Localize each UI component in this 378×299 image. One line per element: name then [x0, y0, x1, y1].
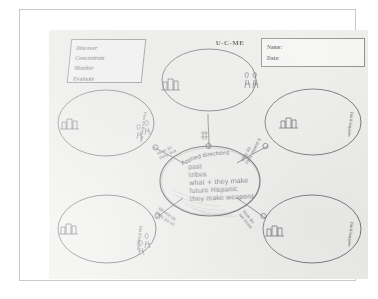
legend-item-evaluate: Evaluate	[73, 74, 142, 84]
legend-item-discover: Discover	[76, 43, 145, 53]
legend-item-monitor: Monitor	[74, 63, 143, 73]
scanned-worksheet-sheet: Discover Concentrate Monitor Evaluate U-…	[49, 30, 368, 279]
legend-box: Discover Concentrate Monitor Evaluate	[67, 39, 147, 83]
right-upper-oval	[265, 89, 361, 155]
name-field-label: Name:	[267, 42, 364, 53]
document-page-frame: Discover Concentrate Monitor Evaluate U-…	[19, 9, 356, 281]
top-oval	[162, 49, 256, 111]
glyph-top-right	[245, 73, 258, 88]
glyph-right-upper	[279, 118, 298, 128]
left-upper-oval	[58, 90, 154, 156]
name-date-box: Name: Date:	[261, 38, 365, 67]
glyph-right-lower	[265, 226, 284, 236]
glyph-left-lower	[59, 224, 78, 234]
legend-item-concentrate: Concentrate	[75, 53, 144, 63]
date-field-label: Date:	[267, 53, 364, 64]
center-node-text: past tribes what + they make future Hisp…	[188, 160, 290, 204]
glyph-left-upper	[60, 119, 79, 129]
screenshot-viewport: Discover Concentrate Monitor Evaluate U-…	[0, 0, 378, 299]
